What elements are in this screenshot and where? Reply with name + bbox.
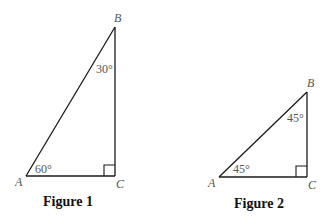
figure-2-vertex-a: A xyxy=(207,176,216,190)
figure-1-vertex-b: B xyxy=(114,11,122,25)
figure-2-vertex-b: B xyxy=(307,76,315,90)
figure-2-right-angle-marker xyxy=(296,166,307,177)
figure-1-angle-a-label: 60° xyxy=(35,162,52,176)
figure-1-angle-b-label: 30° xyxy=(96,62,113,76)
figure-1: B A C 30° 60° Figure 1 xyxy=(14,11,125,209)
figure-2-vertex-c: C xyxy=(308,178,317,192)
figure-2-caption: Figure 2 xyxy=(234,196,284,211)
figure-1-hypotenuse-ab xyxy=(26,27,115,176)
figure-1-vertex-a: A xyxy=(14,175,23,189)
figure-1-vertex-c: C xyxy=(116,177,125,191)
figure-2-angle-a-label: 45° xyxy=(233,162,250,176)
figure-1-right-angle-marker xyxy=(104,165,115,176)
figure-1-caption: Figure 1 xyxy=(43,194,93,209)
figure-2: B A C 45° 45° Figure 2 xyxy=(207,76,317,211)
figure-2-angle-b-label: 45° xyxy=(287,111,304,125)
diagram-canvas: B A C 30° 60° Figure 1 B A C 45° 45° Fig… xyxy=(0,0,331,218)
